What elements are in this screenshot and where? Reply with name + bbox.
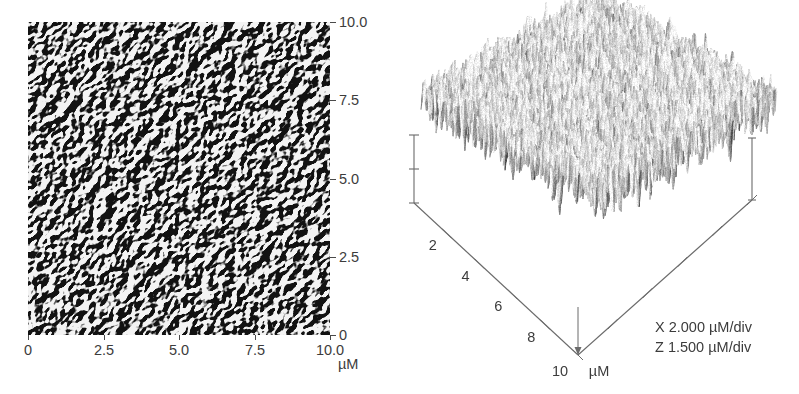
- panel-2d-topography: 02.55.07.510.0 02.55.07.510.0 µM: [0, 0, 400, 394]
- panel-3d-surface: 246810µM X 2.000 µM/div Z 1.500 µM/div: [400, 0, 799, 394]
- unit-label-2d: µM: [338, 357, 358, 372]
- corner-value-label: 10: [552, 364, 568, 379]
- x-tick-label: 2.5: [94, 343, 114, 358]
- y-tick-mark: [330, 22, 336, 23]
- y-tick-label: 10.0: [339, 15, 367, 30]
- x-tick-mark: [104, 335, 105, 340]
- x-tick-label: 0: [24, 343, 32, 358]
- x-axis-2d: 02.55.07.510.0: [28, 335, 330, 336]
- afm-2d-canvas: [28, 22, 330, 335]
- y-tick-mark: [330, 179, 336, 180]
- x-tick-mark: [330, 335, 331, 340]
- x-tick-label: 5.0: [169, 343, 189, 358]
- axis-tick-label-3d: 2: [429, 238, 437, 253]
- y-tick-label: 7.5: [339, 93, 359, 108]
- axis-tick-label-3d: 4: [462, 269, 470, 284]
- y-tick-mark: [330, 257, 336, 258]
- y-tick-mark: [330, 100, 336, 101]
- y-tick-label: 2.5: [339, 250, 359, 265]
- scale-legend-3d: X 2.000 µM/div Z 1.500 µM/div: [655, 318, 752, 357]
- axis-tick-label-3d: 8: [527, 329, 535, 344]
- legend-line-x: X 2.000 µM/div: [655, 318, 752, 338]
- afm-figure: 02.55.07.510.0 02.55.07.510.0 µM 246810µ…: [0, 0, 799, 394]
- x-tick-label: 7.5: [245, 343, 265, 358]
- axis-tick-label-3d: 6: [494, 299, 502, 314]
- y-tick-label: 5.0: [339, 172, 359, 187]
- x-tick-mark: [28, 335, 29, 340]
- legend-line-z: Z 1.500 µM/div: [655, 338, 752, 358]
- y-axis-2d: 02.55.07.510.0: [330, 22, 331, 335]
- x-tick-mark: [179, 335, 180, 340]
- y-tick-label: 0: [339, 328, 347, 343]
- corner-unit-label: µM: [589, 364, 609, 379]
- afm-2d-image: [28, 22, 330, 335]
- x-tick-mark: [255, 335, 256, 340]
